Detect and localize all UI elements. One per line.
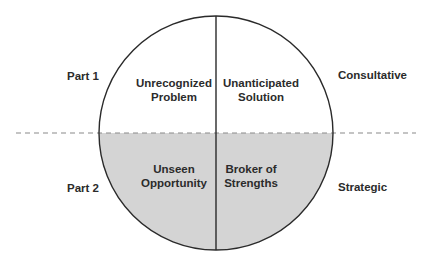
quadrant-line-2: Solution [218,90,304,104]
quadrant-line-2: Strengths [218,176,284,190]
quadrant-line-2: Problem [134,90,214,104]
quadrant-unseen-opportunity: Unseen Opportunity [134,162,214,190]
quadrant-line-1: Unrecognized [134,76,214,90]
quadrant-unrecognized-problem: Unrecognized Problem [134,76,214,104]
quadrant-line-2: Opportunity [134,176,214,190]
label-consultative: Consultative [338,68,407,82]
quadrant-line-1: Unseen [134,162,214,176]
quadrant-line-1: Unanticipated [218,76,304,90]
label-part-1: Part 1 [67,69,99,83]
quadrant-unanticipated-solution: Unanticipated Solution [218,76,304,104]
label-strategic: Strategic [338,180,387,194]
quadrant-circle-diagram [0,0,431,265]
quadrant-broker-of-strengths: Broker of Strengths [218,162,284,190]
label-part-2: Part 2 [67,181,99,195]
quadrant-line-1: Broker of [218,162,284,176]
